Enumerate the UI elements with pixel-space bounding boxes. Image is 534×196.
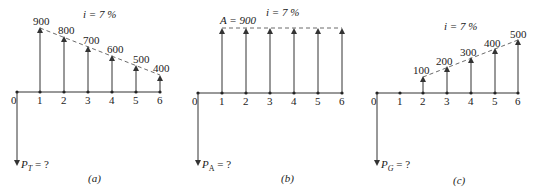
cash-flow-labels: 900 800 700 600 500 400 [33,15,170,74]
period-labels: 0 1 2 3 4 5 6 [11,94,163,106]
svg-text:900: 900 [33,15,50,27]
svg-text:100: 100 [413,64,430,76]
svg-text:1: 1 [397,95,403,107]
interest-rate-label: i = 7 % [266,6,299,18]
panel-b: 0 1 2 3 4 5 6 A = 900 i = 7 % PA = ? (b) [192,6,345,185]
svg-text:4: 4 [109,94,115,106]
svg-text:400: 400 [153,62,170,74]
present-value-label: PG = ? [380,158,410,173]
svg-text:600: 600 [107,43,124,55]
svg-text:400: 400 [484,37,501,49]
panel-a: 0 1 2 3 4 5 6 900 800 700 600 500 400 i … [11,8,170,185]
svg-text:3: 3 [444,95,450,107]
period-labels: 0 1 2 3 4 5 6 [192,95,345,107]
svg-text:2: 2 [243,95,249,107]
svg-text:0: 0 [11,94,17,106]
svg-text:5: 5 [133,94,139,106]
svg-text:3: 3 [267,95,273,107]
panel-caption: (a) [88,172,101,185]
svg-text:500: 500 [510,28,527,40]
svg-text:4: 4 [468,95,474,107]
cash-flow-diagrams: 0 1 2 3 4 5 6 900 800 700 600 500 400 i … [0,0,534,196]
svg-text:2: 2 [61,94,67,106]
svg-text:1: 1 [219,95,225,107]
svg-text:800: 800 [58,24,75,36]
interest-rate-label: i = 7 % [83,8,116,20]
present-value-label: PA = ? [201,158,231,173]
svg-text:3: 3 [85,94,91,106]
svg-text:2: 2 [420,95,426,107]
svg-text:700: 700 [83,34,100,46]
svg-text:300: 300 [460,46,477,58]
period-labels: 0 1 2 3 4 5 6 [371,95,521,107]
svg-text:6: 6 [157,94,163,106]
svg-text:5: 5 [315,95,321,107]
panel-caption: (c) [453,174,466,187]
present-value-label: PT = ? [20,158,49,173]
interest-rate-label: i = 7 % [444,20,477,32]
cash-flow-arrows [222,31,342,93]
panel-c: 0 1 2 3 4 5 6 100 200 300 400 500 i = 7 … [371,20,527,187]
svg-text:4: 4 [291,95,297,107]
svg-text:0: 0 [371,95,377,107]
svg-text:5: 5 [492,95,498,107]
svg-text:6: 6 [515,95,521,107]
cash-flow-labels: 100 200 300 400 500 [413,28,527,76]
svg-text:6: 6 [339,95,345,107]
svg-text:500: 500 [133,53,150,65]
svg-text:1: 1 [37,94,43,106]
svg-text:200: 200 [436,55,453,67]
panel-caption: (b) [281,172,294,185]
svg-text:0: 0 [192,95,198,107]
annuity-label: A = 900 [219,14,256,26]
